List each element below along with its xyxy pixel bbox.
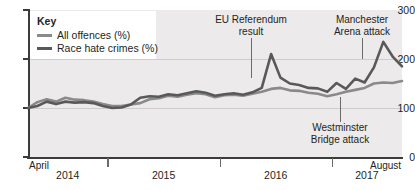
- x-axis-start-label: April: [29, 160, 49, 171]
- legend-label-race-hate-crimes: Race hate crimes (%): [57, 43, 158, 54]
- x-axis-label-2014: 2014: [38, 170, 98, 181]
- annotation-leader-eu-referendum: [251, 38, 252, 78]
- legend-label-all-offences: All offences (%): [57, 30, 130, 41]
- x-axis-label-2016: 2016: [246, 170, 306, 181]
- x-axis-divider-2014-2015: [107, 158, 108, 167]
- legend-title: Key: [37, 16, 149, 27]
- annotation-westminster-bridge: Westminster Bridge attack: [287, 122, 393, 145]
- x-axis-divider-2015-2016: [220, 158, 221, 167]
- legend-swatch-all-offences: [37, 34, 52, 37]
- annotation-westminster-line2: Bridge attack: [287, 134, 393, 146]
- annotation-eu-referendum-line2: result: [196, 26, 306, 38]
- legend-swatch-race-hate-crimes: [37, 47, 52, 50]
- x-axis-end-label: August: [370, 160, 401, 171]
- chart-container: 300 200 100 0 2014 2015 2016 2017 April …: [0, 0, 415, 190]
- annotation-manchester-line1: Manchester: [309, 14, 415, 26]
- legend-item-all-offences: All offences (%): [37, 30, 149, 41]
- x-axis-label-2017: 2017: [337, 170, 397, 181]
- annotation-manchester-line2: Arena attack: [309, 26, 415, 38]
- x-axis-label-2015: 2015: [134, 170, 194, 181]
- annotation-eu-referendum: EU Referendum result: [196, 14, 306, 37]
- annotation-leader-westminster-bridge: [340, 97, 341, 122]
- annotation-manchester-arena: Manchester Arena attack: [309, 14, 415, 37]
- legend-item-race-hate-crimes: Race hate crimes (%): [37, 43, 149, 54]
- annotation-eu-referendum-line1: EU Referendum: [196, 14, 306, 26]
- annotation-leader-manchester-arena: [362, 38, 363, 59]
- annotation-westminster-line1: Westminster: [287, 122, 393, 134]
- x-axis-divider-2016-2017: [332, 158, 333, 167]
- legend-box: Key All offences (%) Race hate crimes (%…: [30, 11, 156, 59]
